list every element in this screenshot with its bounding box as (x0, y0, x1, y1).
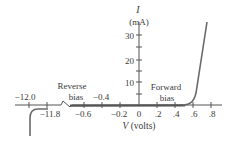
y-tick-label-30: 30 (125, 31, 135, 41)
x-tick-label-04: .4 (173, 109, 180, 119)
x-tick-label-08: .8 (209, 109, 216, 119)
forward-bias-label-line1: Forward (151, 82, 182, 92)
reverse-bias-label-line2: bias (69, 92, 84, 102)
x-tick-label-m06: −0.6 (75, 109, 92, 119)
x-tick-label-m118: −11.8 (40, 109, 61, 119)
x-tick-label-m12: −12.0 (15, 92, 36, 102)
x-tick-label-m02: −0.2 (111, 109, 127, 119)
x-axis-unit: (volts) (128, 121, 155, 132)
y-tick-label-20: 20 (125, 56, 135, 66)
x-axis-label: V (volts) (123, 121, 156, 132)
x-tick-label-02: .2 (155, 109, 162, 119)
reverse-bias-label-line1: Reverse (58, 81, 87, 91)
x-tick-label-06: .6 (191, 109, 198, 119)
y-axis-symbol: I (135, 4, 140, 15)
x-tick-label-m04: −0.4 (93, 92, 110, 102)
forward-bias-label-line2: bias (160, 93, 175, 103)
diode-iv-diagram: I (mA) 30 20 10 −12.0 −11.8 −0.6 −0.4 −0… (0, 0, 233, 146)
forward-bias-curve (183, 22, 207, 105)
x-tick-label-0: 0 (137, 109, 142, 119)
y-tick-label-10: 10 (125, 78, 135, 88)
y-axis-unit: (mA) (129, 17, 149, 27)
